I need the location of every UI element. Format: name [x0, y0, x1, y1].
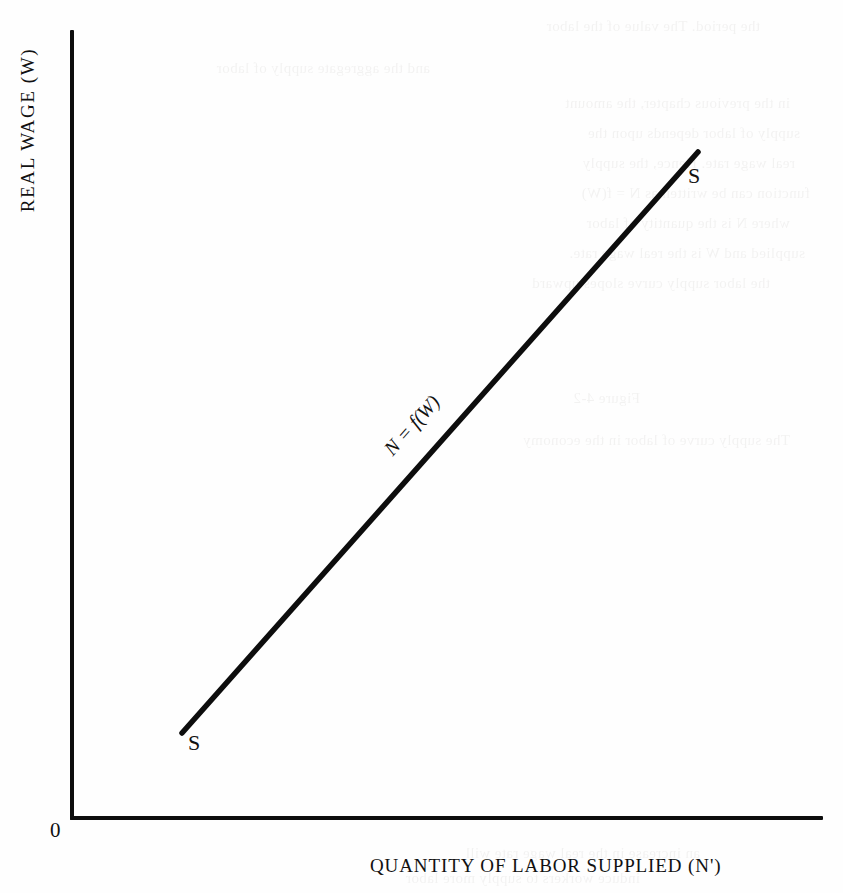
supply-curve-label-top: S: [688, 163, 700, 189]
labor-supply-curve: [182, 152, 698, 733]
labor-supply-figure: the period. The value of the labor in th…: [0, 0, 843, 893]
supply-curve-label-bottom: S: [188, 730, 200, 756]
supply-curve-svg: [0, 0, 843, 893]
